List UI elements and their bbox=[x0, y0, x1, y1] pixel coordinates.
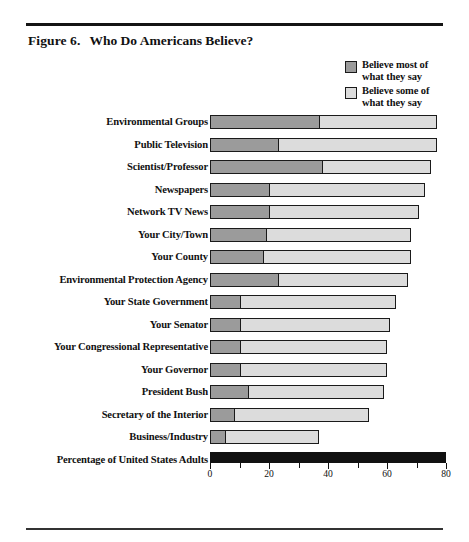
bar-segment-most bbox=[211, 386, 249, 398]
chart-plot-area: Environmental GroupsPublic TelevisionSci… bbox=[0, 112, 469, 482]
chart-row: Your City/Town bbox=[0, 225, 469, 248]
category-label: Public Television bbox=[134, 139, 208, 150]
bar-track bbox=[210, 183, 457, 197]
chart-row: Secretary of the Interior bbox=[0, 405, 469, 428]
figure-container: Figure 6.Who Do Americans Believe? Belie… bbox=[0, 0, 469, 542]
chart-row: Scientist/Professor bbox=[0, 157, 469, 180]
stacked-bar bbox=[210, 295, 396, 309]
chart-row: Newspapers bbox=[0, 180, 469, 203]
bar-segment-most bbox=[211, 341, 241, 353]
bar-track bbox=[210, 340, 457, 354]
bar-segment-most bbox=[211, 409, 235, 421]
chart-row: Network TV News bbox=[0, 202, 469, 225]
chart-row: Your Congressional Representative bbox=[0, 337, 469, 360]
category-label: Your County bbox=[151, 251, 208, 262]
bar-track bbox=[210, 138, 457, 152]
axis-tick-label: 60 bbox=[382, 468, 392, 479]
category-label: Your State Government bbox=[104, 296, 208, 307]
axis-tick-minor bbox=[240, 463, 241, 468]
chart-row: Your State Government bbox=[0, 292, 469, 315]
stacked-bar bbox=[210, 183, 425, 197]
category-label: Environmental Protection Agency bbox=[59, 274, 208, 285]
chart-row: Environmental Groups bbox=[0, 112, 469, 135]
category-label: Your Congressional Representative bbox=[54, 341, 208, 352]
stacked-bar bbox=[210, 228, 411, 242]
stacked-bar bbox=[210, 430, 319, 444]
axis-tick-label: 0 bbox=[208, 468, 213, 479]
figure-title: Who Do Americans Believe? bbox=[89, 33, 253, 48]
top-rule bbox=[26, 23, 443, 26]
chart-axis-row: Percentage of United States Adults020406… bbox=[0, 450, 469, 482]
bar-track bbox=[210, 430, 457, 444]
stacked-bar bbox=[210, 318, 390, 332]
legend-swatch-most-icon bbox=[345, 61, 357, 73]
axis-tick-label: 40 bbox=[323, 468, 333, 479]
bar-segment-most bbox=[211, 251, 264, 263]
chart-row: Environmental Protection Agency bbox=[0, 270, 469, 293]
bar-track bbox=[210, 385, 457, 399]
legend-item-most: Believe most of what they say bbox=[345, 59, 469, 82]
chart-row: Your Senator bbox=[0, 315, 469, 338]
legend-label-most: Believe most of what they say bbox=[362, 59, 428, 82]
bar-track bbox=[210, 408, 457, 422]
category-label: Secretary of the Interior bbox=[102, 409, 208, 420]
category-label: Business/Industry bbox=[129, 431, 208, 442]
bar-track bbox=[210, 160, 457, 174]
category-label: Scientist/Professor bbox=[127, 161, 208, 172]
stacked-bar bbox=[210, 205, 419, 219]
bar-segment-most bbox=[211, 116, 320, 128]
axis-area: 020406080 bbox=[210, 452, 446, 482]
legend-label-some-line1: Believe some of bbox=[362, 85, 429, 96]
legend-item-some: Believe some of what they say bbox=[345, 85, 469, 108]
bar-segment-most bbox=[211, 161, 323, 173]
chart-row: Public Television bbox=[0, 135, 469, 158]
stacked-bar bbox=[210, 250, 411, 264]
axis-tick-minor bbox=[358, 463, 359, 468]
bar-track bbox=[210, 205, 457, 219]
category-label: President Bush bbox=[142, 386, 208, 397]
stacked-bar bbox=[210, 273, 408, 287]
chart-legend: Believe most of what they say Believe so… bbox=[345, 59, 469, 111]
bar-track bbox=[210, 363, 457, 377]
axis-tick-label: 80 bbox=[441, 468, 451, 479]
bar-segment-most bbox=[211, 229, 267, 241]
stacked-bar bbox=[210, 385, 384, 399]
bar-segment-most bbox=[211, 431, 226, 443]
chart-row: Your Governor bbox=[0, 360, 469, 383]
axis-label: Percentage of United States Adults bbox=[57, 454, 208, 465]
bottom-rule bbox=[26, 528, 443, 530]
axis-tick-minor bbox=[417, 463, 418, 468]
bar-track bbox=[210, 228, 457, 242]
category-label: Your Senator bbox=[150, 319, 208, 330]
chart-row: Your County bbox=[0, 247, 469, 270]
category-label: Your City/Town bbox=[138, 229, 208, 240]
legend-label-most-line1: Believe most of bbox=[362, 59, 428, 70]
bar-track bbox=[210, 318, 457, 332]
stacked-bar bbox=[210, 363, 387, 377]
axis-tick-minor bbox=[299, 463, 300, 468]
stacked-bar bbox=[210, 408, 369, 422]
bar-track bbox=[210, 273, 457, 287]
stacked-bar bbox=[210, 160, 431, 174]
bar-segment-most bbox=[211, 296, 241, 308]
category-label: Network TV News bbox=[127, 206, 208, 217]
legend-swatch-some-icon bbox=[345, 87, 357, 99]
bar-segment-most bbox=[211, 364, 241, 376]
bar-segment-most bbox=[211, 206, 270, 218]
bar-track bbox=[210, 295, 457, 309]
bar-track bbox=[210, 115, 457, 129]
category-label: Newspapers bbox=[155, 184, 208, 195]
stacked-bar bbox=[210, 340, 387, 354]
category-label: Your Governor bbox=[141, 364, 208, 375]
bar-segment-most bbox=[211, 184, 270, 196]
bar-segment-most bbox=[211, 274, 279, 286]
figure-caption: Figure 6.Who Do Americans Believe? bbox=[28, 33, 253, 49]
stacked-bar bbox=[210, 138, 437, 152]
bar-track bbox=[210, 250, 457, 264]
bar-segment-most bbox=[211, 139, 279, 151]
figure-number: Figure 6. bbox=[28, 33, 80, 48]
legend-label-most-line2: what they say bbox=[362, 71, 422, 82]
legend-label-some: Believe some of what they say bbox=[362, 85, 429, 108]
stacked-bar bbox=[210, 115, 437, 129]
legend-label-some-line2: what they say bbox=[362, 97, 422, 108]
